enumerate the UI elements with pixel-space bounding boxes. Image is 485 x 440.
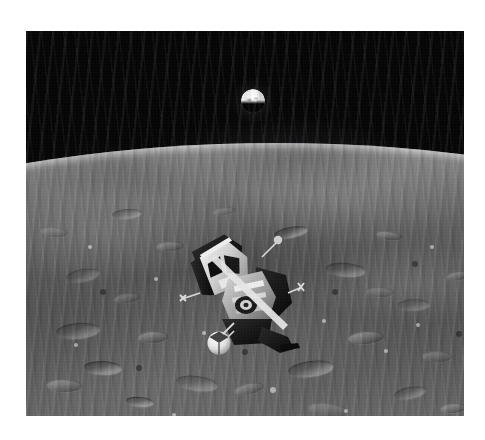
photo-frame: Lunar module ascent stage in orbit above… [0, 0, 485, 440]
lunar-limb-highlight [26, 143, 464, 416]
photograph [26, 31, 464, 416]
page-title: Lunar module ascent stage in orbit above… [0, 21, 1, 22]
lunar-surface [26, 31, 464, 416]
